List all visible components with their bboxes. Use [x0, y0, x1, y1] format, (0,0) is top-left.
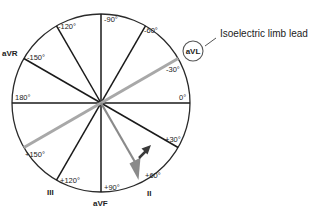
label-plus150: +150°: [25, 150, 45, 159]
callout-label: Isoelectric limb lead: [220, 28, 308, 39]
lead-label-avr: aVR: [2, 49, 18, 58]
hexaxial-diagram: -120° -90° -60° -150° -30° 180° 0° +150°…: [0, 0, 310, 210]
electrical-axis-arrow-shaft: [101, 103, 135, 162]
direction-arrow-shaft: [139, 151, 146, 158]
label-minus90: -90°: [104, 15, 118, 24]
lead-label-iii: III: [47, 188, 54, 197]
label-minus150: -150°: [27, 53, 45, 62]
axis-minus120-half: [57, 26, 102, 103]
lead-label-ii: II: [147, 189, 151, 198]
lead-label-avl: aVL: [186, 47, 201, 56]
lead-label-avf: aVF: [93, 199, 108, 208]
label-plus30: +30°: [165, 135, 181, 144]
label-minus30: -30°: [166, 65, 180, 74]
label-minus60: -60°: [144, 26, 158, 35]
label-minus120: -120°: [58, 22, 76, 31]
label-plus90: +90°: [104, 183, 120, 192]
callout-leader-line: [205, 38, 216, 46]
electrical-axis-arrow-head: [130, 158, 141, 181]
label-plus60: +60°: [145, 171, 161, 180]
label-plus120: +120°: [60, 176, 80, 185]
label-0: 0°: [179, 93, 186, 102]
label-180: 180°: [15, 93, 31, 102]
